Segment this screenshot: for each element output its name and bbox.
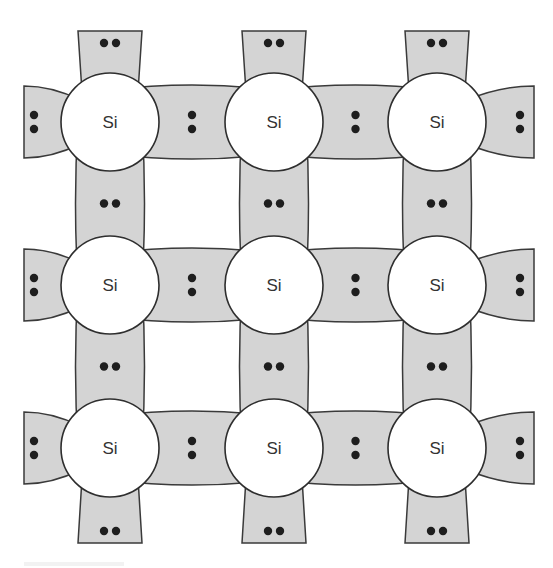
electron-dot bbox=[439, 39, 447, 47]
electron-dot bbox=[264, 199, 272, 207]
atom-label: Si bbox=[102, 276, 117, 295]
electron-dot bbox=[112, 362, 120, 370]
silicon-lattice-diagram: SiSiSiSiSiSiSiSiSi bbox=[0, 0, 553, 568]
electron-dot bbox=[112, 199, 120, 207]
atom-label: Si bbox=[266, 276, 281, 295]
electron-dot bbox=[30, 288, 38, 296]
electron-dot bbox=[276, 199, 284, 207]
atom-label: Si bbox=[266, 439, 281, 458]
electron-dot bbox=[516, 451, 524, 459]
atom-label: Si bbox=[102, 113, 117, 132]
electron-dot bbox=[351, 125, 359, 133]
atom-layer: SiSiSiSiSiSiSiSiSi bbox=[61, 73, 486, 497]
atom-label: Si bbox=[102, 439, 117, 458]
electron-dot bbox=[276, 362, 284, 370]
si-atom: Si bbox=[388, 73, 486, 171]
electron-dot bbox=[188, 451, 196, 459]
si-atom: Si bbox=[225, 236, 323, 334]
si-atom: Si bbox=[225, 399, 323, 497]
electron-dot bbox=[30, 125, 38, 133]
si-atom: Si bbox=[61, 236, 159, 334]
electron-dot bbox=[100, 39, 108, 47]
atom-label: Si bbox=[429, 439, 444, 458]
electron-dot bbox=[264, 362, 272, 370]
si-atom: Si bbox=[225, 73, 323, 171]
figure-caption-fragment bbox=[24, 562, 124, 566]
electron-dot bbox=[112, 527, 120, 535]
atom-label: Si bbox=[429, 276, 444, 295]
si-atom: Si bbox=[61, 399, 159, 497]
electron-dot bbox=[427, 199, 435, 207]
electron-dot bbox=[276, 527, 284, 535]
electron-dot bbox=[30, 274, 38, 282]
electron-dot bbox=[516, 274, 524, 282]
electron-dot bbox=[264, 39, 272, 47]
electron-dot bbox=[188, 274, 196, 282]
electron-dot bbox=[264, 527, 272, 535]
electron-dot bbox=[427, 39, 435, 47]
electron-dot bbox=[30, 111, 38, 119]
electron-dot bbox=[351, 451, 359, 459]
electron-dot bbox=[427, 527, 435, 535]
electron-dot bbox=[100, 362, 108, 370]
electron-dot bbox=[516, 111, 524, 119]
electron-dot bbox=[188, 125, 196, 133]
electron-dot bbox=[188, 437, 196, 445]
atom-label: Si bbox=[429, 113, 444, 132]
electron-dot bbox=[30, 451, 38, 459]
si-atom: Si bbox=[388, 399, 486, 497]
electron-dot bbox=[516, 125, 524, 133]
electron-dot bbox=[188, 111, 196, 119]
electron-dot bbox=[112, 39, 120, 47]
electron-dot bbox=[351, 111, 359, 119]
electron-dot bbox=[439, 362, 447, 370]
electron-dot bbox=[439, 527, 447, 535]
electron-dot bbox=[516, 288, 524, 296]
electron-dot bbox=[439, 199, 447, 207]
electron-dot bbox=[516, 437, 524, 445]
electron-dot bbox=[30, 437, 38, 445]
electron-dot bbox=[427, 362, 435, 370]
atom-label: Si bbox=[266, 113, 281, 132]
electron-dot bbox=[188, 288, 196, 296]
si-atom: Si bbox=[388, 236, 486, 334]
electron-dot bbox=[276, 39, 284, 47]
electron-dot bbox=[100, 527, 108, 535]
si-atom: Si bbox=[61, 73, 159, 171]
electron-dot bbox=[100, 199, 108, 207]
electron-dot bbox=[351, 288, 359, 296]
electron-dot bbox=[351, 274, 359, 282]
electron-dot bbox=[351, 437, 359, 445]
